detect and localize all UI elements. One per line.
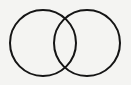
right-set-circle: [54, 10, 120, 76]
left-set-circle: [10, 10, 76, 76]
venn-svg: [0, 0, 131, 85]
venn-diagram: [0, 0, 131, 85]
